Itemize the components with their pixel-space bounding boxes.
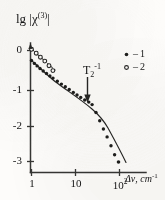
t2-superscript: -1 [94,62,101,71]
y-axis-title-base: lg |χ [16,11,38,26]
t2-annotation-label: T2-1 [83,63,101,79]
open-circle-icon [122,62,131,71]
series-1-markers [30,59,121,164]
legend-label-1: 1 [140,48,145,59]
plot-canvas [0,0,165,200]
x-axis-title-superscript: -1 [152,172,158,180]
legend-label-2: 2 [140,61,145,72]
y-axis-top-marker [28,43,32,49]
legend-dash-1: – [133,48,138,59]
y-tick-label-minus-1: -1 [4,84,22,95]
x-axis-title: Δν, cm-1 [125,173,158,184]
x-axis-title-base: Δν, cm [125,173,152,184]
legend-dash-2: – [133,61,138,72]
filled-circle-icon [122,49,131,58]
y-tick-label-0: 0 [4,44,22,55]
y-axis-title-tail: | [47,11,50,26]
y-axis-title-superscript: (3) [38,11,47,20]
legend-item-1: – 1 [122,48,145,59]
x-tick-label-1: 1 [26,178,38,189]
y-tick-label-minus-2: -2 [4,120,22,131]
y-axis-title: lg |χ(3)| [16,12,50,25]
figure-panel: lg |χ(3)| 0 -1 -2 -3 1 10 102 Δν, cm-1 T… [0,0,165,200]
y-tick-label-minus-3: -3 [4,155,22,166]
series-2-markers [30,47,55,72]
legend-item-2: – 2 [122,61,145,72]
x-tick-label-10: 10 [68,178,84,189]
t2-subscript: 2 [90,70,94,79]
x-tick-label-100-base: 10 [113,179,124,191]
